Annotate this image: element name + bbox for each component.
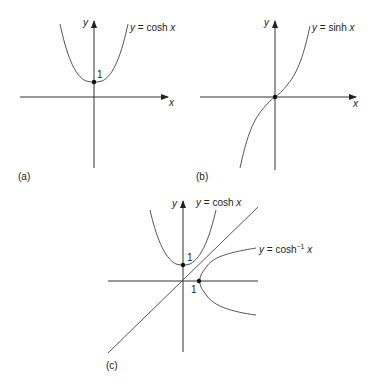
panel-c: 1 1 y y = cosh x y = cosh−1 x (c) <box>106 197 313 371</box>
tick-label-y1: 1 <box>187 252 193 263</box>
curve-label-cosh-inverse: y = cosh−1 x <box>258 243 313 255</box>
point-0-1 <box>92 80 96 84</box>
point-origin <box>273 95 277 99</box>
point-0-1 <box>181 263 185 267</box>
panel-a: 1 y x y = cosh x (a) <box>18 17 176 182</box>
panel-label-a: (a) <box>18 171 30 182</box>
panel-label-b: (b) <box>196 171 208 182</box>
y-axis-label: y <box>263 17 270 28</box>
x-axis-label: x <box>352 98 359 109</box>
hyperbolic-functions-figure: 1 y x y = cosh x (a) y x y = sinh x (b) … <box>0 0 376 383</box>
panel-label-c: (c) <box>106 360 118 371</box>
x-axis-label: x <box>168 97 175 108</box>
curve-label-cosh: y = cosh x <box>129 22 176 33</box>
point-1-0 <box>197 279 201 283</box>
curve-label-sinh: y = sinh x <box>311 22 356 33</box>
panel-b: y x y = sinh x (b) <box>196 17 359 182</box>
curve-label-cosh: y = cosh x <box>195 197 242 208</box>
y-axis-label: y <box>82 17 89 28</box>
tick-label-x1: 1 <box>191 284 197 295</box>
y-axis-label: y <box>171 198 178 209</box>
tick-label-1: 1 <box>97 69 103 80</box>
